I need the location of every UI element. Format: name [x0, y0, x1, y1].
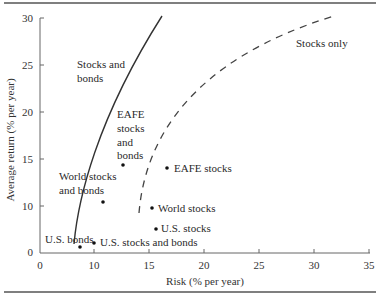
x-axis-title: Risk (% per year)	[166, 275, 244, 288]
label-world-stocks: World stocks	[158, 202, 215, 214]
y-tick-15: 15	[22, 153, 34, 165]
chart: 30 25 20 15 10 0 0 10 15 20 25 30 35 Ris…	[0, 0, 381, 296]
point-eafe-stocks	[165, 166, 169, 170]
x-tick-30: 30	[309, 259, 321, 271]
label-stocks-only: Stocks only	[296, 37, 348, 49]
y-tick-10: 10	[22, 200, 34, 212]
y-tick-25: 25	[22, 59, 34, 71]
label-eafe-sb-line1: EAFE	[117, 108, 145, 120]
point-us-stocks	[154, 227, 158, 231]
label-us-stocks: U.S. stocks	[161, 222, 211, 234]
y-tick-20: 20	[22, 106, 34, 118]
label-stocks-and-bonds-line1: Stocks and	[77, 58, 125, 70]
x-tick-10: 10	[89, 259, 101, 271]
label-eafe-sb-line3: and	[117, 136, 133, 148]
label-eafe-stocks: EAFE stocks	[174, 162, 232, 174]
y-tick-0: 0	[28, 246, 34, 258]
point-us-bonds	[78, 245, 82, 249]
label-us-bonds: U.S. bonds	[45, 233, 94, 245]
point-world-stocks-and-bonds	[101, 200, 105, 204]
y-tick-30: 30	[22, 12, 34, 24]
y-axis-title: Average return (% per year)	[4, 78, 17, 202]
x-tick-0: 0	[37, 259, 43, 271]
label-eafe-sb-line4: bonds	[117, 149, 143, 161]
x-tick-15: 15	[144, 259, 156, 271]
x-tick-35: 35	[364, 259, 376, 271]
label-us-stocks-and-bonds: U.S. stocks and bonds	[100, 236, 197, 248]
label-world-sb-line2: and bonds	[59, 184, 104, 196]
y-axis	[40, 18, 44, 253]
x-axis	[40, 249, 370, 253]
x-tick-20: 20	[199, 259, 211, 271]
label-world-sb-line1: World stocks	[59, 170, 116, 182]
point-eafe-stocks-and-bonds	[121, 163, 125, 167]
x-tick-25: 25	[254, 259, 266, 271]
label-eafe-sb-line2: stocks	[117, 122, 145, 134]
label-stocks-and-bonds-line2: bonds	[77, 72, 103, 84]
point-world-stocks	[150, 206, 154, 210]
